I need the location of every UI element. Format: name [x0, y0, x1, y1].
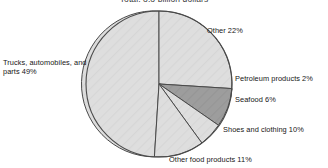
slice-label-trucks: Trucks, automobiles, and parts 49%	[3, 58, 91, 77]
slice-label-petroleum: Petroleum products 2%	[235, 74, 313, 83]
pie-chart-figure: Total: 8.8 billion dollars Trucks, autom…	[0, 0, 328, 168]
pie-chart-svg	[0, 0, 328, 168]
slice-label-other: Other 22%	[207, 26, 243, 35]
pie-slice-trucks[interactable]	[81, 11, 159, 157]
slice-label-shoes: Shoes and clothing 10%	[223, 125, 304, 134]
slice-label-seafood: Seafood 6%	[235, 95, 276, 104]
slice-label-other-food: Other food products 11%	[169, 155, 252, 164]
